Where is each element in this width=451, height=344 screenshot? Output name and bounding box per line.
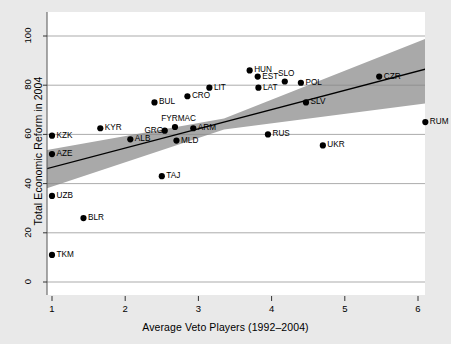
data-point-label: MLD xyxy=(181,136,198,145)
plot-svg xyxy=(0,0,451,344)
x-tick-label: 6 xyxy=(406,303,430,314)
data-point-label: FYRMAC xyxy=(161,114,196,123)
data-point xyxy=(298,80,304,86)
data-point-label: ALB xyxy=(135,134,151,143)
data-point xyxy=(255,85,261,91)
data-point-label: AZE xyxy=(57,149,73,158)
data-point xyxy=(97,125,103,131)
data-point xyxy=(49,151,55,157)
x-tick-label: 2 xyxy=(113,303,137,314)
data-point-label: CRO xyxy=(192,91,210,100)
data-point xyxy=(190,125,196,131)
x-tick-label: 5 xyxy=(333,303,357,314)
regression-line xyxy=(32,65,443,173)
data-point-label: LIT xyxy=(214,83,226,92)
data-point-label: TKM xyxy=(57,250,74,259)
data-point xyxy=(206,85,212,91)
data-point-label: SLV xyxy=(311,97,326,106)
data-point-label: RUM xyxy=(430,117,449,126)
data-point-label: GRG xyxy=(144,126,163,135)
data-point xyxy=(184,93,190,99)
data-point-label: RUS xyxy=(272,129,289,138)
x-tick-label: 3 xyxy=(186,303,210,314)
x-axis-title: Average Veto Players (1992–2004) xyxy=(0,321,451,333)
data-point-label: BLR xyxy=(88,213,104,222)
data-point xyxy=(172,124,178,130)
data-point-label: BUL xyxy=(159,97,175,106)
y-tick-label: 0 xyxy=(22,269,33,295)
data-point-label: EST xyxy=(262,72,278,81)
y-tick-label: 60 xyxy=(22,121,33,147)
y-axis-title: Total Economic Reform in 2004 xyxy=(32,31,44,271)
y-tick-label: 100 xyxy=(22,23,33,49)
data-point xyxy=(303,99,309,105)
data-point-label: POL xyxy=(305,78,322,87)
y-tick-label: 80 xyxy=(22,72,33,98)
confidence-band xyxy=(32,32,443,193)
data-point xyxy=(320,142,326,148)
y-tick-label: 40 xyxy=(22,170,33,196)
x-tick-label: 1 xyxy=(40,303,64,314)
data-point-label: CZR xyxy=(384,72,401,81)
data-point xyxy=(376,73,382,79)
data-point xyxy=(159,173,165,179)
data-point xyxy=(247,67,253,73)
data-point xyxy=(282,78,288,84)
data-point xyxy=(127,136,133,142)
data-point xyxy=(49,133,55,139)
data-point-label: SLO xyxy=(278,69,295,78)
data-point xyxy=(265,131,271,137)
data-point-label: KYR xyxy=(105,123,122,132)
data-point xyxy=(49,252,55,258)
y-tick-label: 20 xyxy=(22,219,33,245)
data-point-label: UKR xyxy=(327,140,344,149)
data-point-label: ARM xyxy=(198,123,216,132)
data-point xyxy=(80,215,86,221)
data-point-label: TAJ xyxy=(166,171,180,180)
data-point xyxy=(422,119,428,125)
data-point xyxy=(173,137,179,143)
scatter-plot-figure: Average Veto Players (1992–2004) Total E… xyxy=(0,0,451,344)
data-point-label: UZB xyxy=(57,191,74,200)
x-tick-label: 4 xyxy=(260,303,284,314)
data-point xyxy=(49,193,55,199)
data-point xyxy=(151,99,157,105)
data-point-label: KZK xyxy=(57,131,73,140)
data-point-label: LAT xyxy=(263,83,278,92)
